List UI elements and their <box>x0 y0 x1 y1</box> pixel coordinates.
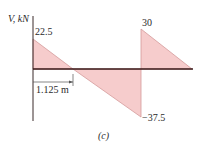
positive-region-right <box>141 29 192 69</box>
value-neg-37-5: −37.5 <box>142 112 165 123</box>
negative-region <box>73 69 141 117</box>
figure-caption: (c) <box>98 130 110 142</box>
y-axis-label: V, kN <box>8 13 30 24</box>
value-30: 30 <box>142 17 152 28</box>
value-22-5: 22.5 <box>35 26 53 37</box>
dimension-arrow <box>69 81 73 84</box>
positive-region-left <box>33 39 73 69</box>
shear-diagram: V, kN 22.5 30 −37.5 1.125 m (c) <box>0 0 204 152</box>
dimension-label: 1.125 m <box>36 84 69 95</box>
